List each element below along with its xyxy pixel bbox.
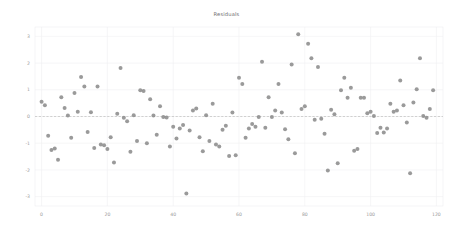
data-point [125,119,129,123]
data-point [59,95,63,99]
data-point [40,100,44,104]
x-tick-label: 80 [302,212,308,217]
data-point [76,110,80,114]
data-point [168,144,172,148]
data-point [339,88,343,92]
data-point [184,191,188,195]
data-point [171,125,175,129]
data-point [96,85,100,89]
data-point [267,95,271,99]
data-point [402,103,406,107]
data-point [82,85,86,89]
data-point [415,87,419,91]
data-point [43,103,47,107]
data-point [201,149,205,153]
data-point [128,150,132,154]
data-point [405,120,409,124]
data-point [188,128,192,132]
data-point [63,106,67,110]
data-point [191,109,195,113]
data-point [112,160,116,164]
data-point [270,115,274,119]
data-point [263,126,267,130]
data-point [240,82,244,86]
data-point [425,116,429,120]
scatter-plot-canvas: 020406080100120 -3-2-10123 [0,0,453,237]
x-tick-label: 20 [104,212,110,217]
data-point [336,161,340,165]
data-point [382,131,386,135]
data-point [260,60,264,64]
data-point [398,78,402,82]
data-point [119,66,123,70]
data-point [109,135,113,139]
data-point [194,106,198,110]
data-point [283,127,287,131]
data-point [296,32,300,36]
x-tick-label: 100 [366,212,375,217]
data-point [290,62,294,66]
data-point [418,56,422,60]
data-point [198,135,202,139]
data-point [369,110,373,114]
data-point [230,110,234,114]
data-point [428,107,432,111]
data-point [362,96,366,100]
data-point [276,82,280,86]
y-tick-label: 3 [27,34,30,39]
data-point [250,122,254,126]
data-point [115,112,119,116]
data-point [211,102,215,106]
data-point [86,130,90,134]
data-point [204,113,208,117]
y-tick-label: -3 [25,194,30,199]
x-tick-label: 40 [170,212,176,217]
data-point [46,134,50,138]
data-point [56,158,60,162]
data-point [342,76,346,80]
data-point [395,109,399,113]
data-point [155,133,159,137]
data-point [53,147,57,151]
data-point [247,127,251,131]
data-point [151,113,155,117]
data-point [378,126,382,130]
data-point [286,137,290,141]
data-point [105,147,109,151]
y-tick-label: -2 [25,168,30,173]
x-tick-label: 120 [432,212,441,217]
data-point [303,104,307,108]
data-point [181,123,185,127]
data-point [319,117,323,121]
data-point [375,131,379,135]
data-point [234,153,238,157]
data-point [300,107,304,111]
data-point [372,114,376,118]
data-point [257,115,261,119]
data-point [355,147,359,151]
data-point [280,110,284,114]
data-point [411,101,415,105]
data-point [237,76,241,80]
data-point [293,151,297,155]
data-point [72,91,76,95]
y-tick-label: -1 [25,141,30,146]
data-point [221,128,225,132]
data-point [253,125,257,129]
data-point [207,139,211,143]
data-point [326,168,330,172]
data-point [92,146,96,150]
data-point [66,113,70,117]
data-point [102,143,106,147]
data-point [79,75,83,79]
data-point [69,136,73,140]
data-point [217,144,221,148]
data-point [388,102,392,106]
data-point [165,116,169,120]
data-point [227,154,231,158]
y-tick-label: 1 [27,87,30,92]
data-point [431,88,435,92]
data-point [142,89,146,93]
data-point [158,104,162,108]
data-point [135,139,139,143]
